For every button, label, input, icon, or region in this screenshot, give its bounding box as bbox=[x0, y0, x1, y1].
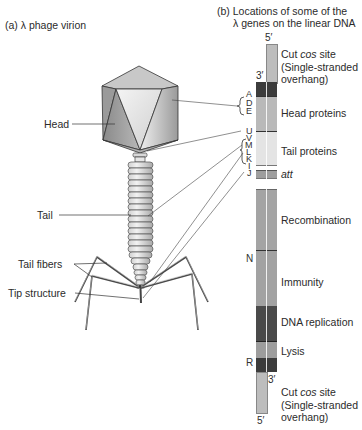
region-label-recombination: Recombination bbox=[281, 214, 351, 226]
top-5prime-label: 5′ bbox=[265, 32, 272, 44]
bottom-5prime-label: 5′ bbox=[257, 415, 264, 427]
gene-N: N bbox=[246, 254, 253, 263]
tip-structure bbox=[141, 288, 142, 303]
dna-segment-cos-bottom bbox=[256, 372, 268, 414]
phage-tail bbox=[128, 162, 153, 288]
region-label-cos-bottom: Cut cos site (Single-stranded overhang) bbox=[281, 386, 358, 424]
region-label-dna-replication: DNA replication bbox=[281, 316, 353, 328]
region-label-head-proteins: Head proteins bbox=[281, 107, 346, 119]
dna-segment-cos-top bbox=[266, 44, 278, 84]
strand-divider bbox=[266, 82, 267, 372]
gene-E: E bbox=[246, 107, 252, 116]
gene-R: R bbox=[246, 358, 253, 367]
head-label: Head bbox=[44, 118, 69, 130]
bottom-3prime-label: 3′ bbox=[268, 374, 275, 386]
tail-fibers-label: Tail fibers bbox=[18, 258, 62, 270]
tail-label: Tail bbox=[37, 209, 53, 221]
region-label-lysis: Lysis bbox=[281, 345, 305, 357]
tip-structure-label: Tip structure bbox=[8, 287, 66, 299]
region-label-att: att bbox=[281, 168, 293, 180]
phage-collar bbox=[133, 153, 147, 162]
region-label-cos-top: Cut cos site (Single-stranded overhang) bbox=[281, 48, 358, 86]
region-label-immunity: Immunity bbox=[281, 276, 324, 288]
region-label-tail-proteins: Tail proteins bbox=[281, 145, 337, 157]
phage-head bbox=[102, 66, 178, 153]
top-3prime-label: 3′ bbox=[256, 70, 263, 82]
gene-J: J bbox=[247, 169, 252, 178]
